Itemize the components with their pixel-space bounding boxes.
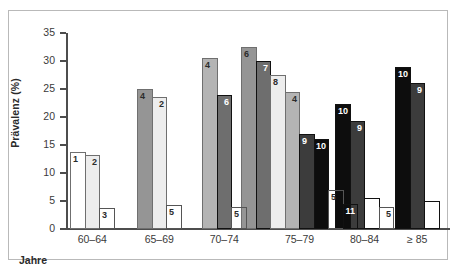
y-tick-mark	[60, 60, 66, 61]
bar: 10	[395, 67, 411, 229]
bar-value-label: 11	[344, 207, 358, 216]
bar-value-label: 11	[425, 204, 439, 213]
bar-value-label: 6	[242, 50, 256, 59]
y-tick-mark	[60, 172, 66, 173]
y-axis-line	[66, 33, 68, 229]
bar: 1	[70, 152, 86, 229]
bar-value-label: 8	[271, 78, 285, 87]
bar-value-label: 5	[167, 208, 181, 217]
bar: 5	[328, 190, 344, 229]
bar-value-label: 4	[138, 92, 152, 101]
bar: 9	[299, 134, 315, 229]
bar-value-label: 1	[71, 155, 85, 164]
bar-value-label: 7	[257, 64, 271, 73]
bar-value-label: 5	[380, 210, 394, 219]
bar: 4	[285, 92, 301, 229]
bar: 6	[217, 95, 233, 229]
bar-value-label: 9	[300, 137, 314, 146]
bar: 3	[99, 208, 115, 229]
bar: 2	[85, 155, 101, 229]
bar: 11	[364, 198, 380, 229]
y-tick-mark	[60, 144, 66, 145]
bar-value-label: 2	[86, 158, 100, 167]
bar: 11	[343, 204, 359, 229]
bar-value-label: 10	[336, 107, 350, 116]
bar-value-label: 2	[153, 100, 167, 109]
y-tick-label: 0	[9, 223, 55, 233]
y-tick-mark	[60, 200, 66, 201]
bar-value-label: 5	[329, 193, 343, 202]
bar: 4	[202, 58, 218, 229]
y-tick-label: 5	[9, 195, 55, 205]
bar-value-label: 4	[286, 95, 300, 104]
bar-value-label: 6	[218, 98, 232, 107]
y-axis-label: Prävalenz (%)	[9, 33, 21, 193]
bar: 6	[241, 47, 257, 229]
chart-figure: 05101520253035 Prävalenz (%) Jahre 12360…	[0, 0, 457, 276]
y-tick-mark	[60, 228, 66, 229]
y-tick-mark	[60, 116, 66, 117]
bar: 5	[166, 205, 182, 229]
bar-value-label: 11	[365, 201, 379, 210]
bar: 9	[410, 83, 426, 229]
bar-value-label: 4	[203, 61, 217, 70]
bar: 4	[137, 89, 153, 229]
bar-value-label: 9	[411, 86, 425, 95]
bar: 10	[314, 139, 330, 229]
y-tick-mark	[60, 32, 66, 33]
bar: 11	[424, 201, 440, 229]
x-tick-label: 70–74	[184, 233, 264, 245]
bar: 2	[152, 97, 168, 229]
bar: 7	[256, 61, 272, 229]
bar-value-label: 9	[351, 124, 365, 133]
bar: 5	[379, 207, 395, 229]
x-tick-label: ≥ 85	[377, 233, 457, 245]
bar: 5	[231, 207, 247, 229]
bar-value-label: 10	[315, 142, 329, 151]
chart-frame: 05101520253035 Prävalenz (%) Jahre 12360…	[8, 10, 448, 260]
bar-value-label: 10	[396, 70, 410, 79]
bar: 8	[270, 75, 286, 229]
y-tick-mark	[60, 88, 66, 89]
bar-value-label: 3	[100, 211, 114, 220]
bar-value-label: 5	[232, 210, 246, 219]
x-axis-label: Jahre	[19, 254, 47, 266]
